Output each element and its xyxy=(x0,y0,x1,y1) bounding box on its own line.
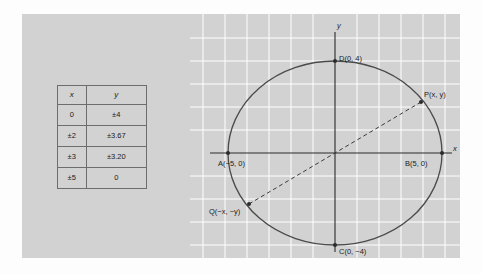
point-label-C: C(0, −4) xyxy=(339,248,366,256)
table-cell-y: 0 xyxy=(86,168,146,189)
point-label-B: B(5, 0) xyxy=(405,160,428,168)
table-cell-y: ±3.67 xyxy=(86,126,146,147)
table-cell-x: ±5 xyxy=(58,168,87,189)
values-table: x y 0 ±4 ±2 ±3.67 ±3 ±3.20 ±5 xyxy=(57,85,147,189)
table-cell-x: ±3 xyxy=(58,147,87,168)
table-cell-x: ±2 xyxy=(58,126,87,147)
ellipse-graph: y x D(0, 4) P(x, y) A(−5, 0) B(5, 0) Q(−… xyxy=(190,14,460,258)
table-row: ±2 ±3.67 xyxy=(58,126,147,147)
table-cell-y: ±4 xyxy=(86,105,146,126)
x-axis-label: x xyxy=(453,145,457,153)
point-label-Q: Q(−x, −y) xyxy=(209,208,240,216)
point-Q-marker xyxy=(247,202,251,206)
y-axis-label: y xyxy=(337,22,341,30)
point-P-marker xyxy=(419,100,423,104)
table-header-y: y xyxy=(86,86,146,105)
point-label-P: P(x, y) xyxy=(424,91,446,99)
graph-svg xyxy=(190,14,460,258)
table-header-x: x xyxy=(58,86,87,105)
table-row: ±3 ±3.20 xyxy=(58,147,147,168)
point-label-D: D(0, 4) xyxy=(339,55,362,63)
point-A-marker xyxy=(226,151,230,155)
table-row: 0 ±4 xyxy=(58,105,147,126)
point-D-marker xyxy=(333,59,337,63)
point-label-A: A(−5, 0) xyxy=(218,160,245,168)
table-cell-y: ±3.20 xyxy=(86,147,146,168)
figure-panel: x y 0 ±4 ±2 ±3.67 ±3 ±3.20 ±5 xyxy=(22,14,460,258)
values-table-container: x y 0 ±4 ±2 ±3.67 ±3 ±3.20 ±5 xyxy=(57,85,147,185)
table-cell-x: 0 xyxy=(58,105,87,126)
grid-lines xyxy=(190,14,460,258)
point-C-marker xyxy=(333,243,337,247)
point-B-marker xyxy=(440,151,444,155)
table-header-row: x y xyxy=(58,86,147,105)
table-row: ±5 0 xyxy=(58,168,147,189)
